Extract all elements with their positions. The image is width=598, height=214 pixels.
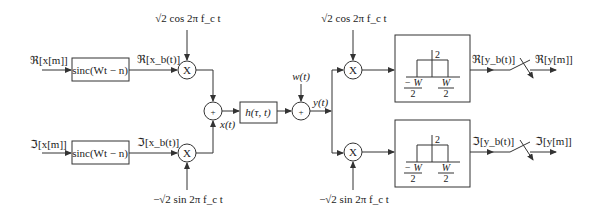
rx-sin-carrier-label: −√2 sin 2π f_c t (319, 193, 389, 205)
multiplier-tx-bottom-symbol: X (183, 147, 191, 159)
interp-filter-bottom-label: sinc(Wt − n) (72, 147, 128, 160)
lowpass-top-right-den: 2 (444, 88, 449, 99)
baseband-real-label: ℜ[x_b(t)] (137, 53, 180, 66)
block-diagram: ℜ[x[m]] sinc(Wt − n) ℜ[x_b(t)] √2 cos 2π… (0, 0, 598, 214)
rx-baseband-real-label: ℜ[y_b(t)] (472, 53, 515, 66)
tx-sin-carrier-label: −√2 sin 2π f_c t (153, 193, 223, 205)
noise-adder-symbol: + (298, 107, 303, 117)
lowpass-bottom-right-den: 2 (444, 173, 449, 184)
interp-filter-top-label: sinc(Wt − n) (72, 64, 128, 77)
rx-baseband-imag-label: ℑ[y_b(t)] (472, 135, 514, 148)
tx-adder-symbol: + (210, 107, 215, 117)
lowpass-top-gain: 2 (435, 49, 440, 60)
multiplier-rx-top-symbol: X (349, 64, 357, 76)
lowpass-bottom-left-den: 2 (411, 173, 416, 184)
rx-cos-carrier-label: √2 cos 2π f_c t (321, 12, 386, 24)
tx-top-to-adder-line (196, 70, 213, 101)
output-imag-label: ℑ[y[m]] (535, 135, 572, 147)
multiplier-rx-bottom-symbol: X (349, 146, 357, 158)
lowpass-top-left-den: 2 (411, 88, 416, 99)
lowpass-bottom-gain: 2 (435, 134, 440, 145)
tx-cos-carrier-label: √2 cos 2π f_c t (155, 12, 220, 24)
tx-bottom-to-adder-line (196, 121, 213, 153)
noise-label: w(t) (292, 70, 310, 83)
rx-signal-label: y(t) (312, 96, 329, 109)
lowpass-top-left-num: − W (404, 77, 423, 88)
sampler-switch-top-arrow (520, 58, 533, 78)
sampler-switch-bottom-arrow (520, 140, 533, 160)
multiplier-tx-top-symbol: X (183, 64, 191, 76)
tx-signal-label: x(t) (219, 118, 236, 131)
output-real-label: ℜ[y[m]] (535, 53, 573, 65)
input-real-label: ℜ[x[m]] (30, 54, 68, 66)
lowpass-bottom-left-num: − W (404, 162, 423, 173)
baseband-imag-label: ℑ[x_b(t)] (137, 136, 179, 149)
channel-label: h(τ, t) (245, 106, 271, 119)
input-imag-label: ℑ[x[m]] (30, 138, 67, 150)
